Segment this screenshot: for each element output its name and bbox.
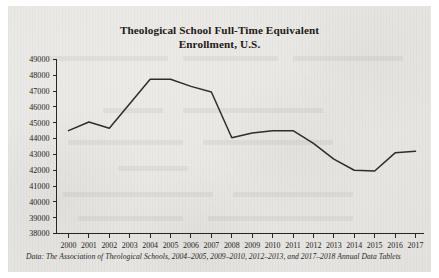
svg-text:45000: 45000 (29, 119, 49, 128)
svg-text:2009: 2009 (244, 241, 260, 250)
svg-text:40000: 40000 (29, 198, 49, 207)
enrollment-line-series (69, 79, 416, 171)
svg-text:2001: 2001 (81, 241, 97, 250)
svg-text:2016: 2016 (387, 241, 403, 250)
svg-text:41000: 41000 (29, 182, 49, 191)
svg-text:2014: 2014 (346, 241, 362, 250)
svg-text:2008: 2008 (224, 241, 240, 250)
svg-text:38000: 38000 (29, 229, 49, 238)
svg-text:2003: 2003 (122, 241, 138, 250)
source-footnote: Data: The Association of Theological Sch… (26, 252, 426, 261)
x-axis-tick-labels: 2000200120022003200420052006200720082009… (61, 241, 424, 250)
svg-text:2012: 2012 (306, 241, 322, 250)
plot-area: 3800039000400004100042000430004400045000… (8, 6, 431, 272)
svg-text:2013: 2013 (326, 241, 342, 250)
svg-text:2007: 2007 (203, 241, 219, 250)
svg-text:43000: 43000 (29, 150, 49, 159)
svg-text:2011: 2011 (285, 241, 301, 250)
chart-axes (53, 60, 424, 234)
svg-text:2000: 2000 (61, 241, 77, 250)
svg-text:48000: 48000 (29, 71, 49, 80)
y-axis-tick-labels: 3800039000400004100042000430004400045000… (29, 55, 49, 238)
svg-text:2002: 2002 (101, 241, 117, 250)
svg-text:2004: 2004 (142, 241, 158, 250)
svg-text:47000: 47000 (29, 87, 49, 96)
svg-text:2015: 2015 (367, 241, 383, 250)
svg-text:2017: 2017 (408, 241, 424, 250)
svg-text:2005: 2005 (163, 241, 179, 250)
svg-text:46000: 46000 (29, 103, 49, 112)
y-axis-tick-marks (53, 60, 57, 234)
svg-text:2010: 2010 (265, 241, 281, 250)
scanned-page: Theological School Full-Time Equivalent … (0, 0, 439, 278)
svg-text:2006: 2006 (183, 241, 199, 250)
x-axis-tick-marks (69, 234, 416, 238)
svg-text:49000: 49000 (29, 55, 49, 64)
svg-text:44000: 44000 (29, 134, 49, 143)
svg-text:39000: 39000 (29, 214, 49, 223)
line-chart: 3800039000400004100042000430004400045000… (8, 6, 431, 272)
svg-text:42000: 42000 (29, 166, 49, 175)
paper-background: Theological School Full-Time Equivalent … (8, 6, 431, 272)
